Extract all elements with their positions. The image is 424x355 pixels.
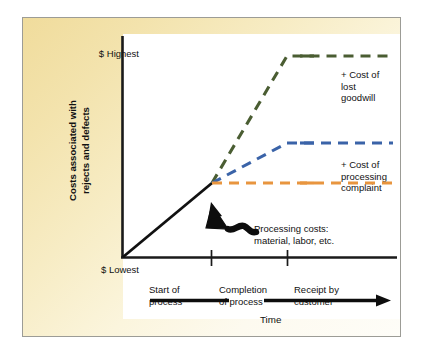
series-line-processing-complaint	[212, 143, 393, 183]
series-line-processing-costs	[123, 183, 212, 257]
chart-figure: $ Highest $ Lowest Costs associated with…	[0, 0, 424, 355]
series-line-lost-goodwill	[212, 56, 393, 183]
chart-vector-layer	[0, 0, 424, 355]
time-arrow-icon	[150, 295, 391, 307]
curved-callout-arrow-icon	[206, 202, 256, 232]
